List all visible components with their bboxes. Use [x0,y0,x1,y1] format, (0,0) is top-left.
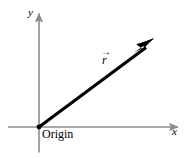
position-vector-arrow [37,38,155,129]
origin-label: Origin [42,128,73,140]
vector-overarrow-icon: → [101,47,111,57]
diagram-canvas [0,0,195,158]
origin-point [37,125,42,130]
vector-diagram-figure: y x Origin →r [0,0,195,158]
x-axis-label: x [172,126,177,137]
y-axis-label: y [28,7,33,18]
vector-label: →r [102,54,107,66]
vector-symbol-group: →r [102,54,107,66]
vector-shaft [39,48,146,128]
